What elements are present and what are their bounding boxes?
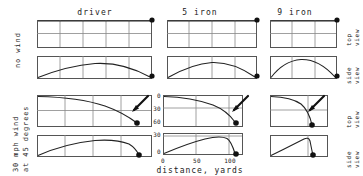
xtick-0: 0: [157, 157, 169, 164]
landing-point-marker: [307, 149, 319, 161]
panel-five-iron-no-wind-side: [167, 56, 257, 79]
column-header-nine-iron: 9 iron: [265, 8, 325, 17]
view-label-top-view-nowind-line2: view: [353, 29, 360, 46]
row-label-no-wind: no wind: [14, 32, 22, 68]
wind-drift-arrow: [304, 94, 326, 116]
panel-nine-iron-no-wind-side: [270, 56, 337, 79]
landing-point-marker: [131, 117, 143, 129]
ytick-side-0: 0: [145, 148, 161, 155]
column-header-five-iron: 5 iron: [170, 8, 230, 17]
view-label-top-view-nowind-line1: top: [345, 33, 352, 46]
view-label-top-view-wind-line2: view: [353, 111, 360, 128]
view-label-side-view-wind-line2: view: [353, 151, 360, 168]
view-label-side-view-nowind-line1: side: [345, 67, 352, 84]
row-label-wind-line1: 30 mph wind: [12, 116, 20, 172]
panel-driver-no-wind-side: [37, 56, 152, 79]
ytick-top-0: 0: [145, 92, 161, 99]
panel-driver-no-wind-top: [37, 20, 152, 48]
ytick-top-30: 30: [145, 105, 161, 112]
ytick-side-30: 30: [145, 131, 161, 138]
landing-point-marker: [251, 14, 263, 26]
view-label-side-view-nowind-line2: view: [353, 67, 360, 84]
landing-point-marker: [331, 14, 343, 26]
landing-point-marker: [146, 70, 158, 82]
xtick-50: 50: [190, 157, 204, 164]
view-label-top-view-wind-line1: top: [345, 115, 352, 128]
xtick-100: 100: [222, 157, 238, 164]
row-label-wind-line2: at 45 degrees: [22, 106, 30, 173]
x-axis-title: distance, yards: [140, 166, 260, 175]
panel-nine-iron-no-wind-top: [270, 20, 337, 48]
ytick-top-60: 60: [145, 118, 161, 125]
golf-trajectory-figure: driver 5 iron 9 iron no wind 30 mph wind…: [0, 0, 363, 176]
landing-point-marker: [251, 70, 263, 82]
landing-point-marker: [133, 149, 145, 161]
landing-point-marker: [230, 117, 242, 129]
wind-drift-arrow: [228, 94, 250, 116]
landing-point-marker: [146, 14, 158, 26]
view-label-side-view-wind-line1: side: [345, 151, 352, 168]
panel-five-iron-no-wind-top: [167, 20, 257, 48]
landing-point-marker: [306, 119, 318, 131]
column-header-driver: driver: [60, 8, 130, 17]
panel-nine-iron-wind-side: [270, 135, 328, 157]
landing-point-marker: [331, 70, 343, 82]
